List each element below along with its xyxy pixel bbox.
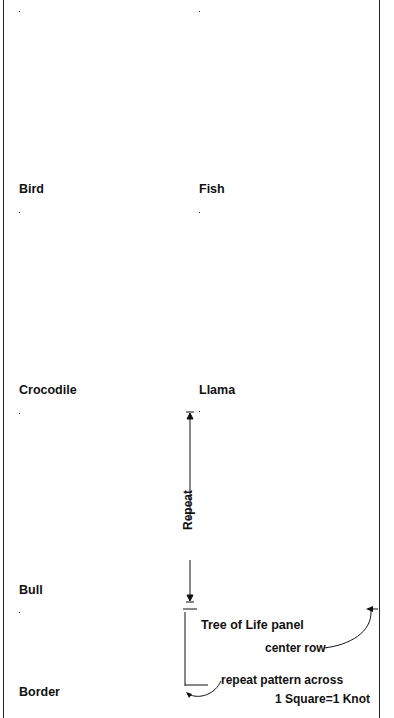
llama-chart-grid (199, 212, 200, 213)
tree-of-life-chart-grid (199, 411, 200, 412)
fish-label: Fish (199, 182, 225, 196)
llama-label: Llama (199, 383, 235, 397)
fish-chart-grid (199, 11, 200, 12)
border-chart-grid (19, 612, 20, 613)
bull-chart-grid (19, 413, 20, 414)
crocodile-label: Crocodile (19, 383, 77, 397)
bird-label: Bird (19, 182, 44, 196)
crocodile-chart-grid (19, 212, 20, 213)
repeat-label: Repeat (181, 490, 195, 530)
bird-chart-grid (19, 11, 20, 12)
page-frame (3, 0, 380, 718)
center-row-note: center row (265, 641, 326, 655)
border-label: Border (19, 685, 60, 699)
tree-of-life-label: Tree of Life panel (201, 618, 304, 632)
scale-legend: 1 Square=1 Knot (275, 692, 370, 706)
repeat-pattern-note: repeat pattern across (221, 673, 343, 687)
bull-label: Bull (19, 583, 43, 597)
